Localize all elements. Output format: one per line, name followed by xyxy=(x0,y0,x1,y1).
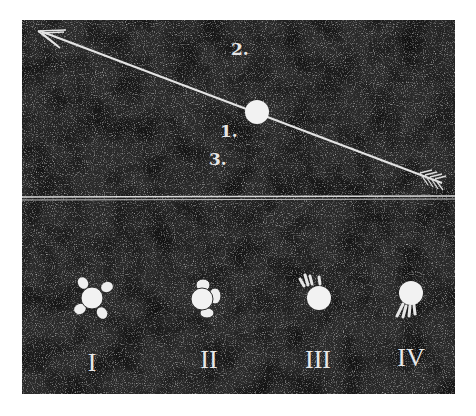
figure-label-II: II xyxy=(200,345,217,374)
sphere xyxy=(245,100,269,124)
figure-label-IV: IV xyxy=(397,343,425,372)
position-label-2: 2. xyxy=(231,39,249,59)
position-label-1: 1. xyxy=(220,121,238,141)
board-speckle xyxy=(22,20,455,394)
sphere xyxy=(191,288,213,310)
sphere xyxy=(307,286,331,310)
sphere xyxy=(399,281,423,305)
position-label-3: 3. xyxy=(209,149,227,169)
sphere xyxy=(81,287,103,309)
illustration-plate: 2. 1. 3. I II xyxy=(0,0,476,416)
figure-label-III: III xyxy=(305,345,331,374)
figure-label-I: I xyxy=(88,348,97,377)
